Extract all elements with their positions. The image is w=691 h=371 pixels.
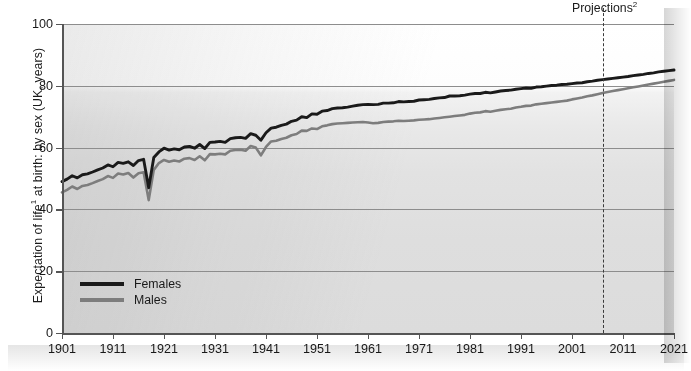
y-axis-tick-label: 40	[39, 202, 53, 216]
y-axis-title-footnote: 1	[29, 200, 38, 205]
chart-legend: Females Males	[80, 276, 181, 308]
x-axis-tick-label: 1971	[405, 342, 433, 356]
legend-swatch-males	[80, 298, 124, 301]
x-axis-tick-label: 1981	[456, 342, 484, 356]
x-axis-tick-label: 1961	[354, 342, 382, 356]
y-axis-tick-label: 0	[46, 326, 53, 340]
projections-divider-line	[603, 8, 604, 333]
projections-label-text: Projections	[572, 1, 633, 15]
x-axis-tick-label: 2011	[609, 342, 636, 356]
plot-area: 020406080100 190119111921193119411951196…	[62, 24, 674, 333]
legend-swatch-females	[80, 282, 124, 286]
y-axis-tick-label: 100	[32, 17, 53, 31]
x-axis-tick-label: 1991	[507, 342, 535, 356]
legend-item-males: Males	[80, 292, 181, 308]
x-axis-tick	[674, 333, 675, 339]
x-axis-line	[62, 333, 674, 335]
legend-item-females: Females	[80, 276, 181, 292]
y-axis-tick-label: 80	[39, 79, 53, 93]
legend-label-males: Males	[134, 293, 167, 307]
series-line-males	[62, 80, 674, 200]
legend-label-females: Females	[134, 277, 181, 291]
y-axis-title-main: Expectation of life	[31, 204, 45, 303]
x-axis-tick-label: 2021	[660, 342, 688, 356]
x-axis-tick-label: 1921	[150, 342, 178, 356]
y-axis-title-rest: at birth: by sex (UK, years)	[31, 48, 45, 200]
x-axis-tick-label: 2001	[558, 342, 586, 356]
chart-figure: Expectation of life1 at birth: by sex (U…	[0, 0, 691, 371]
y-axis-tick-label: 20	[39, 264, 53, 278]
projections-label-footnote: 2	[633, 0, 637, 9]
y-axis-title: Expectation of life1 at birth: by sex (U…	[29, 11, 44, 341]
x-axis-tick-label: 1911	[99, 342, 126, 356]
projections-label: Projections2	[572, 0, 637, 15]
x-axis-tick-label: 1901	[48, 342, 76, 356]
y-axis-tick-label: 60	[39, 141, 53, 155]
x-axis-tick-label: 1931	[201, 342, 229, 356]
y-axis-line	[62, 24, 64, 333]
x-axis-tick-label: 1951	[303, 342, 331, 356]
x-axis-tick-label: 1941	[252, 342, 280, 356]
